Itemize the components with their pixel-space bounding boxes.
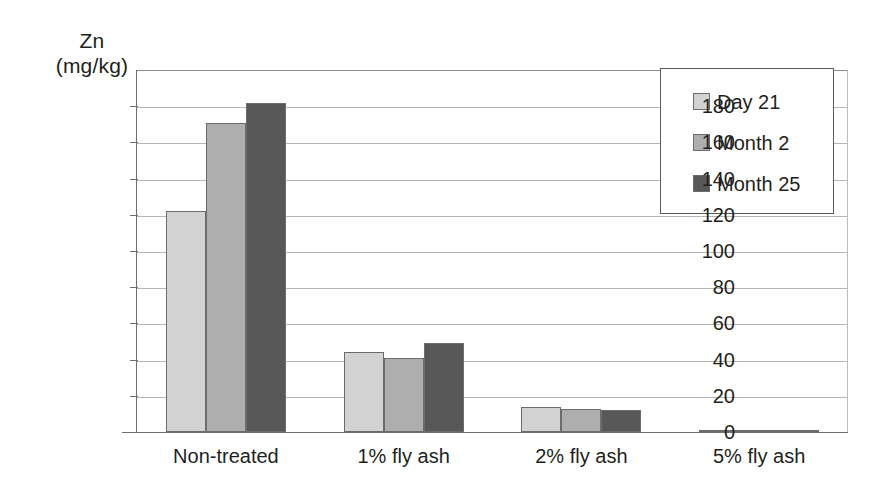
y-axis-tick-label: 140 [645, 169, 735, 189]
x-axis [122, 432, 848, 433]
x-axis-tick-label: 2% fly ash [481, 444, 681, 468]
y-axis-tick-label: 100 [645, 241, 735, 261]
x-axis-tick-label: 1% fly ash [304, 444, 504, 468]
y-axis-tick-label: 0 [645, 422, 735, 442]
y-axis-tick-label: 20 [645, 386, 735, 406]
x-axis-tick-label: Non-treated [126, 444, 326, 468]
bar [166, 211, 206, 432]
y-axis-tick-label: 40 [645, 350, 735, 370]
y-axis-tick-label: 60 [645, 313, 735, 333]
y-axis-title: Zn (mg/kg) [36, 28, 148, 78]
y-axis-title-line1: Zn [36, 28, 148, 53]
bar [206, 123, 246, 433]
bar [779, 430, 819, 432]
bar [424, 343, 464, 432]
bar [601, 410, 641, 432]
y-axis-tick-label: 80 [645, 277, 735, 297]
y-axis-tick-label: 120 [645, 205, 735, 225]
bar [739, 430, 779, 432]
y-axis-title-line2: (mg/kg) [36, 53, 148, 78]
bar [344, 352, 384, 432]
x-axis-tick-label: 5% fly ash [659, 444, 859, 468]
bar [561, 409, 601, 432]
y-axis-tick-label: 180 [645, 96, 735, 116]
bar [246, 103, 286, 432]
bar-chart: Zn (mg/kg) Day 21Month 2Month 25 0204060… [0, 0, 887, 504]
y-axis-tick-label: 160 [645, 132, 735, 152]
bar [521, 407, 561, 432]
bar [384, 358, 424, 432]
